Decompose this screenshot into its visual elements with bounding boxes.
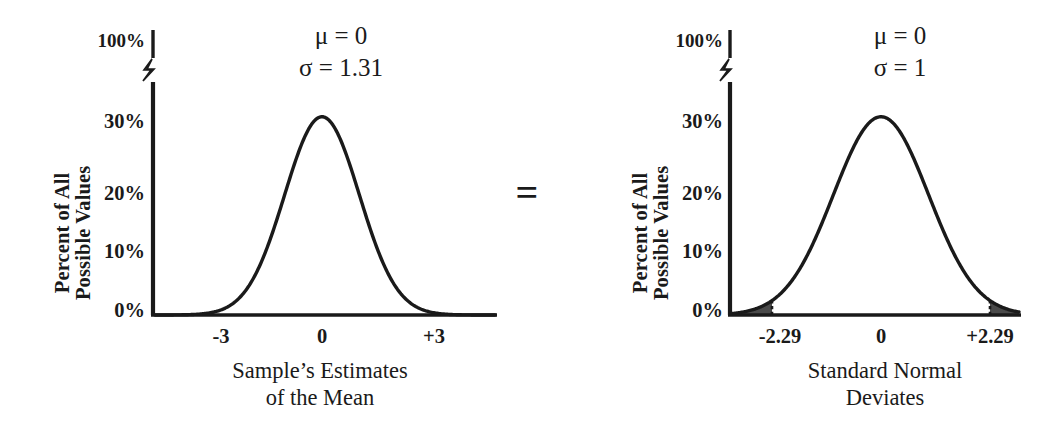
sigma-annotation: σ = 1: [874, 52, 927, 84]
x-tick-label-lower: -3: [212, 325, 229, 348]
x-tick-label-center: 0: [317, 325, 327, 348]
x-tick-label-upper: +3: [423, 325, 445, 348]
y-tick-label-20: 20%: [618, 182, 723, 205]
y-tick-label-20: 20%: [40, 182, 145, 205]
normal-curve: [732, 117, 1019, 314]
normal-distribution-equivalence-figure: Percent of All Possible Values 100% 30% …: [0, 0, 1044, 445]
x-tick-label-upper: +2.29: [966, 325, 1014, 348]
y-tick-label-100: 100%: [618, 30, 723, 52]
axis-break-icon: [720, 59, 731, 81]
axis-break-icon: [143, 59, 154, 81]
x-tick-label-lower: -2.29: [759, 325, 802, 348]
sigma-annotation: σ = 1.31: [299, 52, 383, 84]
panel-standard-normal-deviates: Percent of All Possible Values 100% 30% …: [522, 0, 1022, 445]
y-tick-label-10: 10%: [618, 240, 723, 263]
y-tick-label-10: 10%: [40, 240, 145, 263]
y-tick-label-30: 30%: [40, 110, 145, 133]
y-tick-label-0: 0%: [40, 299, 145, 322]
x-tick-label-center: 0: [876, 325, 886, 348]
x-axis-title: Sample’s Estimates of the Mean: [232, 358, 408, 411]
x-axis-title-line-1: Standard Normal: [808, 358, 962, 385]
mu-annotation: μ = 0: [299, 20, 383, 52]
x-axis-title-line-2: of the Mean: [232, 385, 408, 412]
distribution-parameters: μ = 0 σ = 1.31: [299, 20, 383, 84]
mu-annotation: μ = 0: [874, 20, 927, 52]
panel-sample-estimates: Percent of All Possible Values 100% 30% …: [0, 0, 500, 445]
distribution-parameters: μ = 0 σ = 1: [874, 20, 927, 84]
x-axis-title-line-2: Deviates: [808, 385, 962, 412]
y-tick-label-0: 0%: [618, 299, 723, 322]
x-axis-title: Standard Normal Deviates: [808, 358, 962, 411]
y-tick-label-100: 100%: [40, 30, 145, 52]
x-axis-title-line-1: Sample’s Estimates: [232, 358, 408, 385]
y-tick-label-30: 30%: [618, 110, 723, 133]
normal-curve: [155, 117, 495, 315]
